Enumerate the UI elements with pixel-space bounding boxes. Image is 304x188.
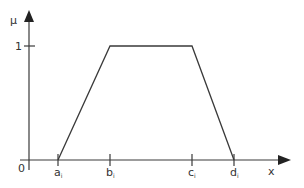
y-tick-label-1: 1 — [15, 40, 22, 53]
x-axis-label: x — [268, 165, 275, 178]
x-tick-label-b: bi — [106, 166, 115, 179]
origin-label: 0 — [18, 162, 25, 175]
trapezoid-membership-diagram: μ 1 0 x ai bi ci di — [0, 0, 304, 188]
x-axis-arrow-icon — [278, 155, 291, 165]
trapezoid-line — [58, 46, 234, 160]
y-axis-arrow-icon — [24, 10, 34, 22]
x-tick-label-c: ci — [188, 166, 196, 179]
x-tick-label-d: di — [230, 166, 239, 179]
x-tick-label-a: ai — [54, 166, 63, 179]
y-axis-label: μ — [10, 14, 17, 27]
